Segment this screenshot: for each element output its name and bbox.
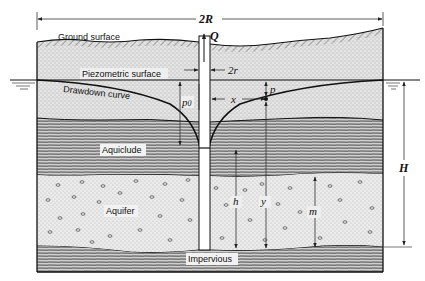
x-label: x [230, 93, 236, 105]
p-label: p [269, 83, 276, 95]
aquiclude-label: Aquiclude [102, 145, 142, 155]
water-level-marker-right [386, 83, 400, 89]
water-level-marker-left [12, 83, 35, 89]
m-label: m [309, 205, 317, 217]
impervious-label: Impervious [188, 254, 233, 264]
2r-label: 2r [228, 64, 239, 76]
well-casing [199, 36, 210, 250]
ground-surface-label: Ground surface [58, 32, 120, 42]
piezometric-surface-label: Piezometric surface [82, 69, 161, 79]
drawdown-point [264, 97, 268, 101]
H-label: H [398, 161, 409, 175]
discharge-symbol: Q [210, 29, 219, 43]
aquifer-label: Aquifer [106, 206, 135, 216]
h-label: h [233, 195, 239, 207]
2R-label: 2R [198, 12, 213, 26]
y-label: y [260, 195, 266, 207]
aquifer-cross-section-diagram: Q 2R 2r Ground surface Piezometric surfa… [0, 0, 425, 281]
